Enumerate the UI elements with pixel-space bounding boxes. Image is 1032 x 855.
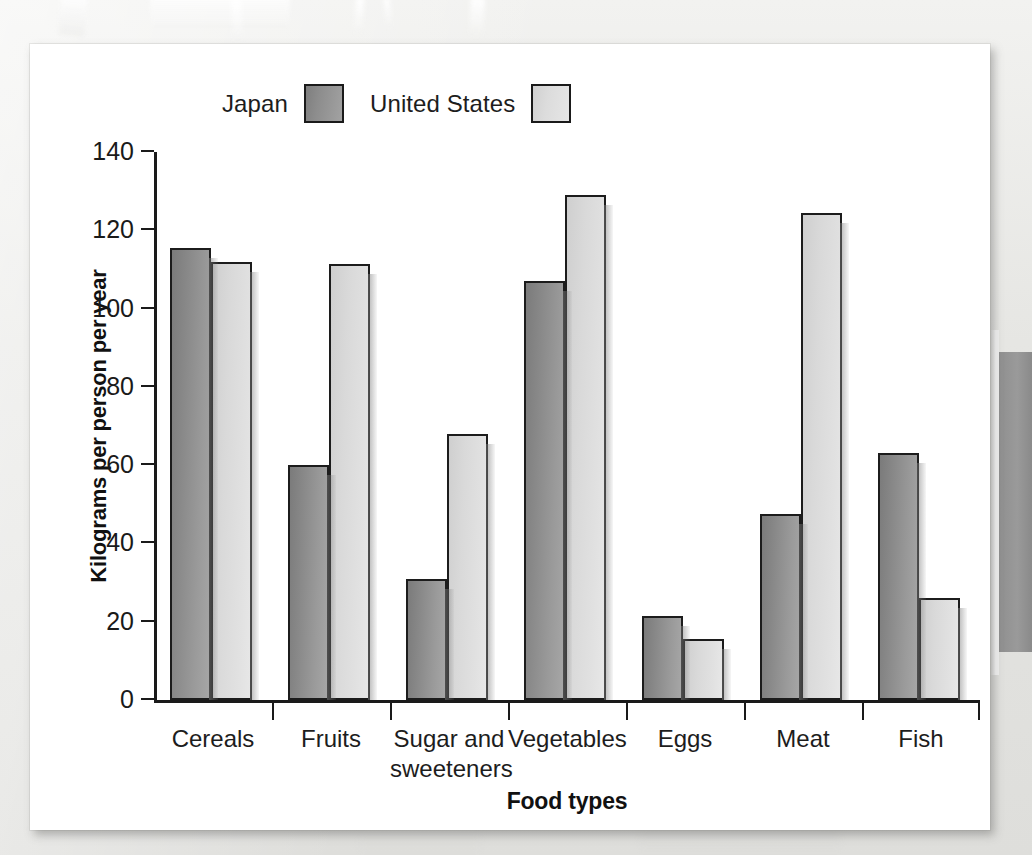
x-tick-4: [626, 703, 628, 720]
y-tick-label-140: 140: [92, 137, 134, 166]
bar-japan-fish: [878, 453, 919, 700]
page-edge-gutter: [990, 330, 999, 675]
legend-label-japan: Japan: [222, 90, 288, 118]
x-tick-3: [508, 703, 510, 720]
y-tick-label-100: 100: [92, 293, 134, 322]
y-tick-60: 60: [141, 463, 154, 465]
y-tick-0: 0: [141, 698, 154, 700]
y-tick-label-40: 40: [106, 528, 134, 557]
x-tick-label-cereals: Cereals: [154, 724, 272, 754]
plot-area: 020406080100120140 CerealsFruitsSugar an…: [154, 152, 980, 700]
scan-artifact: [640, 828, 840, 850]
legend-label-united-states: United States: [370, 90, 515, 118]
united-states-swatch-icon: [531, 84, 571, 123]
x-tick-5: [744, 703, 746, 720]
x-tick-6: [862, 703, 864, 720]
x-axis-line: [154, 700, 980, 703]
y-tick-label-20: 20: [106, 606, 134, 635]
x-tick-label-meat: Meat: [744, 724, 862, 754]
scan-artifact: [231, 0, 243, 42]
y-tick-120: 120: [141, 228, 154, 230]
x-tick-label-sugar-and: Sugar and sweeteners: [390, 724, 508, 784]
legend-item-japan: Japan: [222, 84, 344, 123]
scan-artifact: [58, 0, 87, 37]
y-axis-line: [154, 152, 157, 701]
x-tick-2: [390, 703, 392, 720]
scan-artifact: [150, 0, 290, 28]
x-tick-end: [978, 703, 980, 720]
bar-japan-meat: [760, 514, 801, 700]
scanned-page: Japan United States Kilograms per person…: [0, 0, 1032, 855]
x-tick-label-vegetables: Vegetables: [508, 724, 626, 754]
y-tick-label-0: 0: [120, 685, 134, 714]
x-tick-label-fish: Fish: [862, 724, 980, 754]
y-tick-80: 80: [141, 385, 154, 387]
x-tick-label-fruits: Fruits: [272, 724, 390, 754]
x-tick-1: [272, 703, 274, 720]
y-tick-100: 100: [141, 307, 154, 309]
page-edge-tab: [999, 352, 1032, 652]
y-tick-140: 140: [141, 150, 154, 152]
bar-japan-fruits: [288, 465, 329, 700]
figure-card: Japan United States Kilograms per person…: [30, 44, 990, 830]
y-tick-label-80: 80: [106, 371, 134, 400]
y-tick-20: 20: [141, 620, 154, 622]
bar-japan-cereals: [170, 248, 211, 700]
scan-artifact: [360, 836, 480, 852]
y-tick-label-120: 120: [92, 215, 134, 244]
bar-japan-sugar-and-sweeteners: [406, 579, 447, 700]
legend-item-united-states: United States: [370, 84, 571, 123]
scan-artifact: [383, 0, 392, 28]
japan-swatch-icon: [304, 84, 344, 123]
y-tick-label-60: 60: [106, 450, 134, 479]
chart-legend: Japan United States: [30, 84, 990, 130]
x-tick-label-eggs: Eggs: [626, 724, 744, 754]
scan-artifact: [469, 0, 485, 36]
x-axis-title: Food types: [154, 788, 980, 815]
bar-japan-eggs: [642, 616, 683, 700]
y-tick-40: 40: [141, 541, 154, 543]
scan-artifact: [354, 0, 364, 34]
bar-japan-vegetables: [524, 281, 565, 700]
